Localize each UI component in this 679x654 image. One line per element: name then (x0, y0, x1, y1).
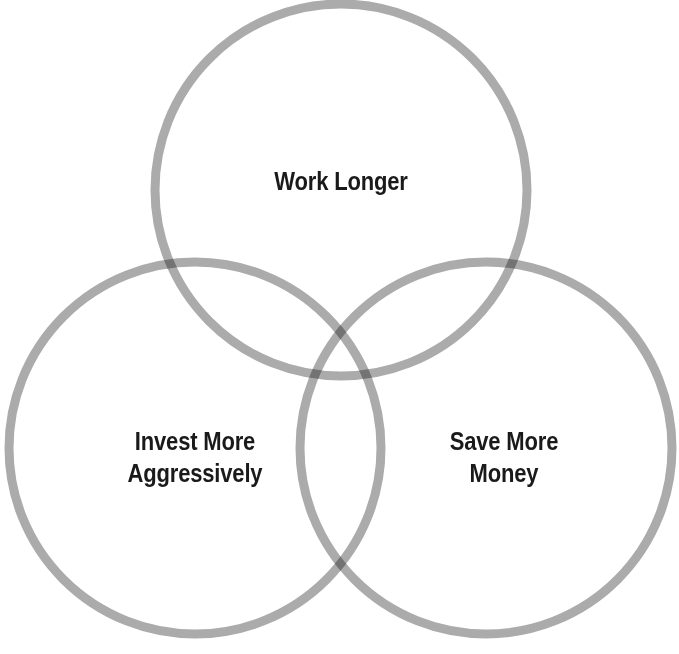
venn-diagram: Work Longer Invest More Aggressively Sav… (0, 0, 679, 654)
venn-circles-graphic (0, 0, 679, 654)
